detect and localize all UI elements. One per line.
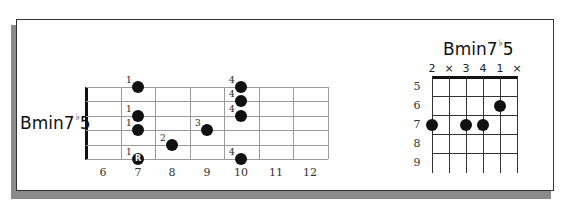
chord-box-string-line (517, 77, 518, 173)
neck-string-line (86, 145, 328, 146)
chord-box-string-line (449, 77, 450, 173)
muted-string-icon: × (442, 62, 456, 75)
finger-number: 4 (229, 75, 235, 85)
note-dot (235, 81, 247, 93)
finger-number: 1 (126, 104, 132, 114)
note-dot (166, 139, 178, 151)
neck-nut (85, 87, 88, 160)
chord-box-fret-number: 9 (410, 156, 424, 169)
finger-number: 1 (126, 147, 132, 157)
note-dot (132, 124, 144, 136)
chord-box-dot (426, 119, 438, 131)
finger-number: 4 (229, 147, 235, 157)
neck-fret-line (155, 87, 156, 159)
finger-number: 1 (126, 75, 132, 85)
neck-fret-number: 11 (266, 166, 286, 179)
chord-box-dot (460, 119, 472, 131)
finger-mark: 4 (476, 62, 490, 75)
finger-mark: 3 (459, 62, 473, 75)
neck-fret-number: 6 (93, 166, 113, 179)
note-dot (235, 110, 247, 122)
note-dot (132, 110, 144, 122)
neck-fret-line (293, 87, 294, 159)
neck-fret-line (190, 87, 191, 159)
chord-box-fret-number: 7 (410, 118, 424, 131)
chord-box-string-line (500, 77, 501, 173)
chord-box-dot (477, 119, 489, 131)
neck-fret-line (259, 87, 260, 159)
finger-mark: 2 (425, 62, 439, 75)
neck-fret-number: 12 (300, 166, 320, 179)
chord-box-fret-line (432, 134, 518, 135)
neck-fret-number: 10 (231, 166, 251, 179)
chord-box-fret-line (432, 96, 518, 97)
finger-number: 1 (126, 118, 132, 128)
root-note-dot: R (132, 153, 144, 165)
neck-chord-name: Bmin7♭5 (20, 112, 91, 133)
neck-string-line (86, 87, 328, 88)
neck-fret-line (121, 87, 122, 159)
finger-number: 3 (195, 118, 201, 128)
chord-box-fret-line (432, 153, 518, 154)
note-dot (235, 153, 247, 165)
chord-box-fret-number: 8 (410, 137, 424, 150)
muted-string-icon: × (510, 62, 524, 75)
finger-number: 4 (229, 89, 235, 99)
neck-fret-line (328, 87, 329, 159)
neck-string-line (86, 101, 328, 102)
finger-mark: 1 (493, 62, 507, 75)
neck-fret-number: 9 (197, 166, 217, 179)
chord-box-fret-line (432, 115, 518, 116)
chord-box-top-bar (432, 76, 518, 79)
neck-fret-number: 7 (128, 166, 148, 179)
note-dot (132, 81, 144, 93)
note-dot (201, 124, 213, 136)
finger-number: 4 (229, 104, 235, 114)
chord-box-fret-number: 6 (410, 99, 424, 112)
finger-number: 2 (160, 133, 166, 143)
chord-box-dot (494, 100, 506, 112)
note-dot (235, 95, 247, 107)
neck-string-line (86, 116, 328, 117)
neck-fret-line (224, 87, 225, 159)
neck-fret-number: 8 (162, 166, 182, 179)
neck-string-line (86, 159, 328, 160)
chord-box-name: Bmin7♭5 (443, 38, 514, 59)
chord-box-fret-number: 5 (410, 80, 424, 93)
